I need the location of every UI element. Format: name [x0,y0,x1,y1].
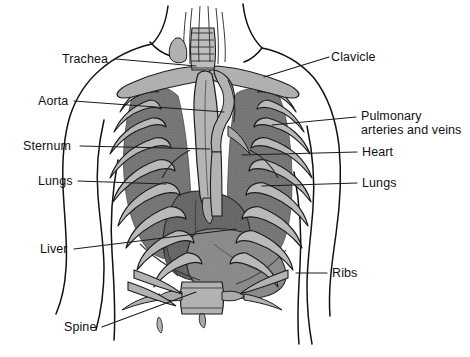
navel-mark [157,318,162,333]
left-abdomen-outline [111,160,118,340]
label-pulmonary-line1: Pulmonary [361,110,461,124]
descending-aorta [211,152,223,216]
label-clavicle: Clavicle [331,51,376,64]
label-lungs-right: Lungs [362,177,397,190]
label-heart: Heart [362,146,393,159]
label-aorta: Aorta [38,95,68,108]
label-lungs-left: Lungs [38,175,73,188]
neck-left-outline [152,6,168,44]
trachea-tube [191,28,216,70]
shoulder-crease-right [244,48,262,62]
right-flank-outline [307,126,314,344]
leader-clavicle [264,57,329,77]
trachea-group [169,6,225,70]
label-pulmonary: Pulmonary arteries and veins [361,110,461,137]
label-spine: Spine [64,321,96,334]
diagram-canvas: Trachea Aorta Sternum Lungs Liver Spine … [0,0,470,357]
larynx-block [169,38,187,63]
label-liver: Liver [40,243,68,256]
shoulder-crease-left [150,42,171,56]
right-abdomen-outline [294,172,301,344]
left-flank-outline [96,120,104,330]
vertebral-body [181,282,224,314]
neck-right-outline [243,4,262,48]
label-pulmonary-line2: arteries and veins [361,124,461,138]
spinous-process [199,314,205,328]
label-sternum: Sternum [23,140,71,153]
label-ribs: Ribs [332,267,357,280]
label-trachea: Trachea [62,53,108,66]
